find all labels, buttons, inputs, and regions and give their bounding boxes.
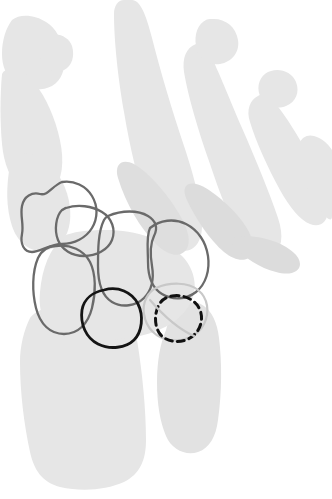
ring-finger-distal-head xyxy=(258,70,297,108)
hand-skeleton-figure: Hand and wrist skeleton outline diagram xyxy=(0,0,332,499)
hand-skeleton-svg xyxy=(0,0,332,499)
thumb-group xyxy=(1,16,74,251)
middle-finger-distal-head xyxy=(195,19,238,64)
thumb-interphalangeal-head xyxy=(40,35,73,72)
